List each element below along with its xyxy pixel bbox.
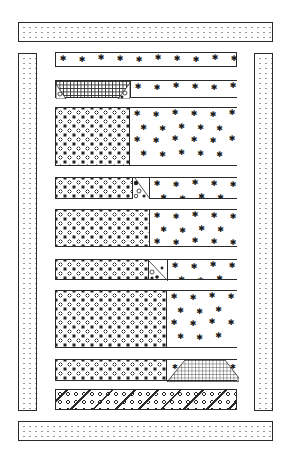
star-fabric-segment: ✱✱✱✱✱✱✱✱✱✱✱✱✱✱ (149, 210, 238, 246)
star-fabric-segment: ✱✱✱✱✱✱ (130, 81, 238, 97)
grid-trapezoid-segment: ✱ ✱ (166, 360, 238, 380)
strip-6: ✱✱✱✱✱✱✱ (55, 259, 237, 280)
triangle-piece (149, 260, 168, 281)
star-motif-icon: ✱ (192, 83, 199, 91)
star-motif-icon: ✱ (217, 194, 224, 199)
star-fabric-segment: ✱✱✱✱✱✱✱ (167, 260, 238, 279)
strip-7: ✱✱✱✱✱✱✱✱✱✱✱✱✱✱ (55, 290, 237, 348)
star-fabric-segment: ✱✱✱✱✱✱✱✱✱✱✱✱✱✱ (166, 291, 238, 347)
star-motif-icon: ✱ (172, 262, 179, 270)
strip-2: ✱✱✱✱✱✱ (55, 80, 237, 98)
quilt-diagram: ✱✱✱✱✱✱✱✱✱✱ ✱✱✱✱✱✱ ✱✱✱✱✱✱✱✱✱✱✱✱✱✱✱✱✱✱✱✱✱✱ (0, 0, 290, 452)
star-motif-icon: ✱ (210, 137, 217, 145)
strip-4: ✱✱✱✱✱✱✱✱✱ (55, 177, 237, 199)
star-motif-icon: ✱ (171, 293, 178, 301)
strip-5: ✱✱✱✱✱✱✱✱✱✱✱✱✱✱ (55, 209, 237, 247)
star-motif-icon: ✱ (136, 56, 143, 64)
star-motif-icon: ✱ (154, 238, 161, 246)
star-motif-icon: ✱ (173, 82, 180, 90)
star-motif-icon: ✱ (215, 306, 222, 314)
star-motif-icon: ✱ (140, 124, 147, 132)
star-motif-icon: ✱ (229, 135, 236, 143)
strip-9 (55, 389, 237, 410)
star-motif-icon: ✱ (197, 150, 204, 158)
star-motif-icon: ✱ (211, 84, 218, 92)
floral-corner-triangles (56, 81, 130, 99)
star-motif-icon: ✱ (154, 84, 161, 92)
star-motif-icon: ✱ (228, 319, 235, 327)
star-motif-icon: ✱ (212, 54, 219, 62)
star-motif-icon: ✱ (196, 334, 203, 342)
star-motif-icon: ✱ (190, 294, 197, 302)
star-motif-icon: ✱ (230, 213, 237, 221)
star-motif-icon: ✱ (217, 226, 224, 234)
star-motif-icon: ✱ (198, 193, 205, 199)
star-motif-icon: ✱ (60, 55, 67, 63)
star-motif-icon: ✱ (191, 136, 198, 144)
star-motif-icon: ✱ (228, 293, 235, 301)
star-motif-icon: ✱ (140, 150, 147, 158)
star-motif-icon: ✱ (134, 110, 141, 118)
strip-8: ✱ ✱ (55, 359, 237, 381)
star-motif-icon: ✱ (216, 275, 223, 280)
star-motif-icon: ✱ (191, 110, 198, 118)
star-motif-icon: ✱ (155, 54, 162, 62)
star-motif-icon: ✱ (79, 56, 86, 64)
star-motif-icon: ✱ (178, 276, 185, 280)
star-motif-icon: ✱ (177, 307, 184, 315)
top-border (18, 22, 273, 42)
star-motif-icon: ✱ (173, 181, 180, 189)
star-motif-icon: ✱ (216, 151, 223, 159)
star-motif-icon: ✱ (191, 263, 198, 271)
grid-trapezoid-piece: ✱ ✱ (167, 360, 239, 382)
star-motif-icon: ✱ (160, 194, 167, 199)
star-motif-icon: ✱ (216, 125, 223, 133)
star-motif-icon: ✱ (210, 111, 217, 119)
star-motif-icon: ✱ (197, 277, 204, 280)
star-motif-icon: ✱ (173, 239, 180, 246)
star-motif-icon: ✱ (154, 180, 161, 188)
star-motif-icon: ✱ (230, 82, 237, 90)
star-motif-icon: ✱ (178, 123, 185, 131)
star-motif-icon: ✱ (209, 292, 216, 300)
star-motif-icon: ✱ (230, 181, 237, 189)
star-motif-icon: ✱ (229, 262, 236, 270)
star-motif-icon: ✱ (179, 195, 186, 199)
svg-text:✱: ✱ (230, 363, 236, 371)
triangle-piece (133, 178, 150, 200)
star-motif-icon: ✱ (172, 109, 179, 117)
star-motif-icon: ✱ (171, 319, 178, 327)
star-motif-icon: ✱ (117, 55, 124, 63)
star-motif-icon: ✱ (172, 135, 179, 143)
star-motif-icon: ✱ (153, 111, 160, 119)
star-motif-icon: ✱ (198, 225, 205, 233)
star-fabric-segment: ✱✱✱✱✱✱✱✱✱ (149, 178, 238, 198)
star-motif-icon: ✱ (211, 180, 218, 188)
floral-triangle-segment (132, 178, 149, 198)
star-motif-icon: ✱ (177, 333, 184, 341)
star-motif-icon: ✱ (154, 212, 161, 220)
floral-fabric-segment (56, 178, 132, 198)
floral-fabric-segment (56, 291, 166, 347)
floral-fabric-segment (56, 210, 149, 246)
star-motif-icon: ✱ (197, 124, 204, 132)
star-motif-icon: ✱ (211, 238, 218, 246)
star-motif-icon: ✱ (173, 213, 180, 221)
bottom-border (18, 421, 273, 441)
grid-fabric-segment (56, 81, 130, 97)
star-motif-icon: ✱ (210, 261, 217, 269)
right-side-border (254, 53, 273, 411)
star-motif-icon: ✱ (231, 55, 237, 63)
left-side-border (18, 53, 37, 411)
floral-fabric-segment (56, 260, 148, 279)
star-motif-icon: ✱ (192, 179, 199, 187)
star-motif-icon: ✱ (190, 320, 197, 328)
floral-triangle-segment (148, 260, 167, 279)
star-motif-icon: ✱ (98, 54, 105, 62)
floral-fabric-segment (56, 108, 129, 165)
star-motif-icon: ✱ (178, 149, 185, 157)
star-motif-icon: ✱ (174, 55, 181, 63)
star-motif-icon: ✱ (135, 83, 142, 91)
strip-3: ✱✱✱✱✱✱✱✱✱✱✱✱✱✱✱✱✱✱✱✱✱✱ (55, 107, 237, 166)
star-motif-icon: ✱ (196, 308, 203, 316)
